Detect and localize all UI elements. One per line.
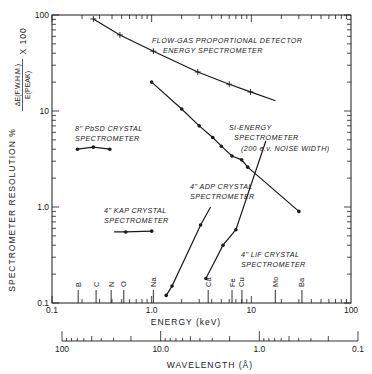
adp-label-2: SPECTROMETER [190, 192, 255, 201]
si-label-1: Si-ENERGY [229, 123, 273, 132]
dot-marker [92, 145, 96, 149]
y-axis-title-main: SPECTROMETER RESOLUTION % [7, 128, 17, 291]
element-marker-label: Fe [228, 278, 237, 287]
series-3 [114, 229, 153, 233]
element-marker-label: Ba [297, 277, 306, 287]
y-tick-label: 1.0 [37, 202, 49, 212]
wavelength-tick-label: 1.0 [253, 344, 265, 354]
y-axis-formula: ΔE(F.W.H.M.) E(PEAK) X 100 [14, 27, 32, 111]
dot-marker [197, 124, 201, 128]
element-marker-label: Na [149, 277, 158, 287]
x-axis-ticks: 0.11.010100 [46, 296, 358, 315]
wavelength-tick-label: 10.0 [152, 344, 169, 354]
y-axis-title: SPECTROMETER RESOLUTION % [7, 128, 17, 291]
element-marker-label: C [92, 281, 101, 287]
pbsd-label-2: SPECTROMETER [75, 134, 140, 143]
kap-label-1: 4" KAP CRYSTAL [104, 206, 167, 215]
y-tick-label: 10 [40, 106, 50, 116]
y-formula-numerator: ΔE(F.W.H.M.) [14, 64, 22, 106]
x2-axis-title: WAVELENGTH (Å) [167, 360, 253, 370]
series-2 [76, 145, 112, 151]
mirror-ticks [52, 15, 351, 303]
plot-border [52, 15, 351, 303]
element-marker-label: Cu [237, 277, 246, 287]
element-markers: BCNONaCaFeCuMoBa [74, 277, 307, 303]
element-marker-label: N [107, 282, 116, 287]
y-formula-denominator: E(PEAK) [24, 71, 32, 99]
plot-frame [52, 15, 351, 303]
dot-marker [234, 228, 238, 232]
flow-gas-label-1: FLOW-GAS PROPORTIONAL DETECTOR [152, 36, 302, 45]
dot-marker [246, 165, 250, 169]
dot-marker [76, 147, 80, 151]
kap-label-2: SPECTROMETER [104, 216, 169, 225]
dot-marker [230, 154, 234, 158]
dot-marker [180, 107, 184, 111]
element-marker-label: O [119, 281, 128, 287]
wavelength-tick-label: 0.1 [352, 344, 364, 354]
dot-marker [124, 230, 128, 234]
x-tick-label: 1.0 [146, 305, 158, 315]
adp-label-1: 4" ADP CRYSTAL [190, 182, 253, 191]
series-0 [90, 16, 275, 101]
dot-marker [211, 136, 215, 140]
dot-marker [170, 284, 174, 288]
dot-marker [220, 144, 224, 148]
element-marker-label: B [74, 282, 83, 287]
y-axis-ticks: 0.11.010100 [35, 10, 59, 308]
dot-marker [204, 277, 208, 281]
dot-marker [150, 80, 154, 84]
y-tick-label: 100 [35, 10, 49, 20]
x-tick-label: 10 [247, 305, 257, 315]
series-line [114, 231, 152, 232]
pbsd-label-1: 8" PbSD CRYSTAL [75, 124, 143, 133]
annotations: FLOW-GAS PROPORTIONAL DETECTOR ENERGY SP… [75, 36, 330, 269]
y-formula-factor: X 100 [18, 27, 28, 54]
x-tick-label: 100 [344, 305, 358, 315]
dot-marker [164, 294, 168, 298]
dot-marker [221, 243, 225, 247]
si-label-2: SPECTROMETER [234, 133, 299, 142]
si-label-3: (200 e.v. NOISE WIDTH) [241, 144, 330, 153]
wavelength-tick-label: 100 [55, 344, 69, 354]
element-marker-label: Mo [271, 277, 280, 287]
dot-marker [108, 147, 112, 151]
flow-gas-label-2: ENERGY SPECTROMETER [163, 46, 263, 55]
dot-marker [199, 223, 203, 227]
series-line [93, 19, 275, 101]
dot-marker [150, 229, 154, 233]
wavelength-axis: 10010.01.00.1 [55, 331, 364, 354]
lif-label-1: 4" LiF CRYSTAL [241, 250, 299, 259]
resolution-vs-energy-chart: 0.11.010100 0.11.010100 BCNONaCaFeCuMoBa… [0, 0, 372, 374]
x-tick-label: 0.1 [46, 305, 58, 315]
lif-label-2: SPECTROMETER [241, 260, 306, 269]
dot-marker [240, 158, 244, 162]
x-axis-title: ENERGY (keV) [151, 317, 221, 327]
dot-marker [297, 210, 301, 214]
